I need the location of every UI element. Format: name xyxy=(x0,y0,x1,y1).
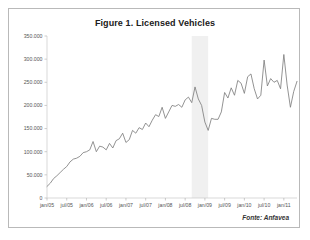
x-axis-tick-label: jan/08 xyxy=(157,202,172,208)
x-axis-tick-label: jan/09 xyxy=(197,202,212,208)
source-note: Fonte: Anfavea xyxy=(242,214,289,221)
y-axis-tick-label: 300.000 xyxy=(24,56,43,62)
x-axis-tick-label: jul/07 xyxy=(138,202,152,208)
x-axis-tick-label: jan/06 xyxy=(78,202,93,208)
y-axis-tick-label: 200.000 xyxy=(24,102,43,108)
y-axis-tick-label: 250.000 xyxy=(24,79,43,85)
series-licensed-vehicles xyxy=(47,55,297,187)
y-axis-tick-label: 350.000 xyxy=(24,33,43,39)
x-axis-tick-label: jan/05 xyxy=(39,202,54,208)
y-axis-tick-label: 0 xyxy=(40,195,43,201)
x-axis-ticks: jan/05jul/05jan/06jul/06jan/07jul/07jan/… xyxy=(39,198,291,208)
x-axis-tick-label: jul/06 xyxy=(99,202,113,208)
x-axis-tick-label: jan/11 xyxy=(276,202,291,208)
data-series-line xyxy=(47,55,297,187)
y-axis-tick-label: 150.000 xyxy=(24,125,43,131)
y-axis-tick-label: 50.000 xyxy=(27,172,43,178)
x-axis-tick-label: jan/07 xyxy=(118,202,133,208)
x-axis-tick-label: jan/10 xyxy=(236,202,251,208)
line-chart: 050.000100.000150.000200.000250.000300.0… xyxy=(9,9,301,229)
shaded-recession-band xyxy=(192,36,208,198)
recession-band xyxy=(192,36,208,198)
x-axis-tick-label: jul/10 xyxy=(257,202,271,208)
y-axis-tick-label: 100.000 xyxy=(24,149,43,155)
x-axis-tick-label: jul/05 xyxy=(60,202,74,208)
x-axis-tick-label: jul/08 xyxy=(178,202,192,208)
x-axis-tick-label: jul/09 xyxy=(217,202,231,208)
y-axis-ticks: 050.000100.000150.000200.000250.000300.0… xyxy=(24,33,47,201)
figure-container: Figure 1. Licensed Vehicles 050.000100.0… xyxy=(8,8,300,228)
